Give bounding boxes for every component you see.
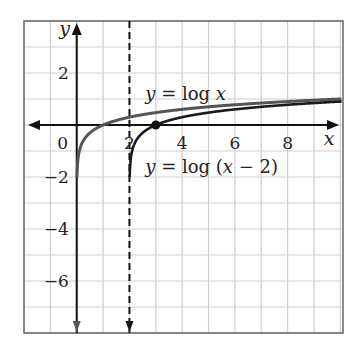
label-log-x: y = log x	[144, 83, 226, 104]
x-tick-label: 0	[57, 133, 68, 153]
y-tick-label: −2	[44, 167, 69, 187]
y-axis-up-arrow-icon	[72, 23, 82, 35]
x-tick-label: 8	[282, 133, 293, 153]
curve-down-arrow-icon	[125, 321, 133, 332]
label-log-x-minus-2: y = log (x − 2)	[144, 156, 278, 177]
log-graph: 024682−2−4−6xy y = log xy = log (x − 2)	[0, 0, 358, 356]
x-tick-label: 2	[124, 133, 135, 153]
x-axis-label: x	[324, 127, 335, 149]
x-tick-label: 4	[177, 133, 188, 153]
points	[151, 121, 160, 130]
curves	[73, 99, 342, 332]
axes	[28, 23, 339, 333]
y-tick-label: −4	[44, 219, 69, 239]
grid-lines	[24, 21, 343, 333]
x-tick-label: 6	[229, 133, 240, 153]
y-axis-label: y	[58, 17, 70, 39]
point-3-0	[151, 121, 160, 130]
tick-labels: 024682−2−4−6xy	[44, 17, 335, 291]
curve-labels: y = log xy = log (x − 2)	[144, 83, 278, 177]
curve-down-arrow-icon	[73, 321, 81, 332]
x-axis-left-arrow-icon	[28, 120, 40, 130]
y-tick-label: −6	[44, 271, 69, 291]
y-tick-label: 2	[58, 63, 69, 83]
